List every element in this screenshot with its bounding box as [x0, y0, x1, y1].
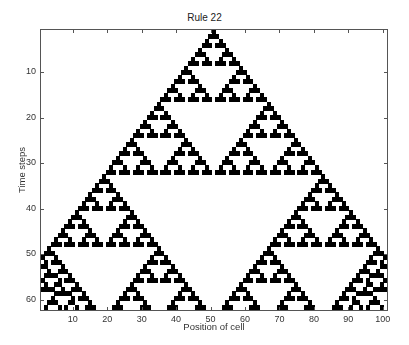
- y-tick-label: 50: [16, 248, 36, 258]
- x-tick-mark: [176, 307, 177, 311]
- cellular-automaton-image: [41, 30, 387, 310]
- y-tick-mark: [384, 209, 388, 210]
- y-tick-mark: [384, 72, 388, 73]
- x-tick-mark: [142, 307, 143, 311]
- x-tick-mark: [348, 29, 349, 33]
- y-tick-label: 40: [16, 203, 36, 213]
- x-tick-mark: [211, 307, 212, 311]
- y-tick-mark: [40, 72, 44, 73]
- x-tick-mark: [73, 307, 74, 311]
- x-tick-mark: [383, 29, 384, 33]
- y-tick-mark: [40, 163, 44, 164]
- y-tick-mark: [40, 209, 44, 210]
- y-tick-label: 20: [16, 112, 36, 122]
- plot-area: [40, 29, 388, 311]
- y-tick-label: 10: [16, 66, 36, 76]
- x-tick-mark: [348, 307, 349, 311]
- x-tick-mark: [73, 29, 74, 33]
- x-tick-mark: [383, 307, 384, 311]
- x-tick-mark: [142, 29, 143, 33]
- y-axis-label: Time steps: [16, 147, 27, 193]
- x-tick-mark: [245, 29, 246, 33]
- x-tick-mark: [279, 29, 280, 33]
- x-tick-mark: [107, 29, 108, 33]
- x-axis-label: Position of cell: [40, 321, 388, 332]
- x-tick-mark: [314, 307, 315, 311]
- y-tick-mark: [384, 163, 388, 164]
- y-tick-mark: [40, 254, 44, 255]
- x-tick-mark: [107, 307, 108, 311]
- y-tick-mark: [40, 118, 44, 119]
- chart-title: Rule 22: [0, 12, 409, 23]
- y-tick-mark: [40, 300, 44, 301]
- y-tick-mark: [384, 254, 388, 255]
- y-tick-mark: [384, 118, 388, 119]
- x-tick-mark: [279, 307, 280, 311]
- x-tick-mark: [211, 29, 212, 33]
- y-tick-mark: [384, 300, 388, 301]
- y-tick-label: 60: [16, 294, 36, 304]
- x-tick-mark: [245, 307, 246, 311]
- x-tick-mark: [176, 29, 177, 33]
- x-tick-mark: [314, 29, 315, 33]
